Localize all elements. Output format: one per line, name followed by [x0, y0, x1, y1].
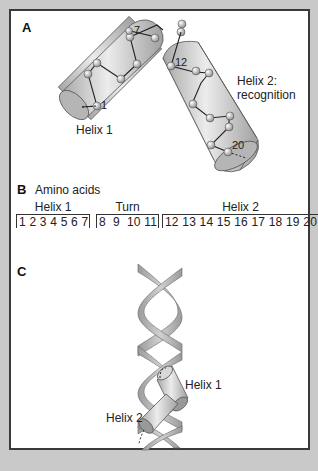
- group-residues: 12 13 14 15 16 17 18 19 20: [162, 214, 318, 228]
- bound-helix2-label: Helix 2: [106, 411, 143, 425]
- residue-label-20: 20: [232, 139, 244, 151]
- group-helix1: Helix 1 1 2 3 4 5 6 7: [16, 200, 90, 228]
- diagram-graphics: [0, 0, 318, 471]
- residue-label-12: 12: [175, 56, 187, 68]
- residue-label-7: 7: [134, 24, 140, 36]
- group-turn: Turn 8 9 10 11: [96, 200, 159, 228]
- helix2-recognition-label: recognition: [237, 88, 296, 102]
- residue-label-1: 1: [101, 99, 107, 111]
- group-residues: 1 2 3 4 5 6 7: [16, 214, 90, 228]
- group-label: Turn: [96, 200, 159, 214]
- panel-b-letter: B: [17, 182, 26, 197]
- bound-helix1-label: Helix 1: [185, 378, 222, 392]
- helix2-label: Helix 2:: [237, 74, 277, 88]
- group-residues: 8 9 10 11: [96, 214, 159, 228]
- group-helix2: Helix 2 12 13 14 15 16 17 18 19 20: [162, 200, 318, 228]
- panel-c-letter: C: [17, 264, 26, 279]
- amino-acids-title: Amino acids: [35, 183, 100, 197]
- group-label: Helix 1: [16, 200, 90, 214]
- helix1-label: Helix 1: [76, 123, 113, 137]
- panel-a-letter: A: [22, 20, 31, 35]
- group-label: Helix 2: [162, 200, 318, 214]
